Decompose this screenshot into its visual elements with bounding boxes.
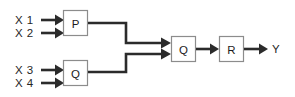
input-label-x1: X 1 <box>15 14 34 26</box>
wire-q-mid-to-r <box>196 44 219 55</box>
input-arrow-x3 <box>41 65 64 76</box>
block-q-lower-label: Q <box>71 68 80 80</box>
block-q-mid-label: Q <box>179 44 188 56</box>
block-r-label: R <box>227 44 235 56</box>
input-label-x2: X 2 <box>15 27 34 39</box>
wire-r-to-output-y <box>244 44 268 55</box>
input-arrow-x2 <box>41 28 64 39</box>
wire-q-lower-to-q-mid <box>88 49 171 73</box>
input-label-x4: X 4 <box>15 77 34 89</box>
input-label-x3: X 3 <box>15 64 34 76</box>
input-arrow-x4 <box>41 78 64 89</box>
wire-p-to-q-mid <box>88 23 171 49</box>
diagram-canvas: X 1 X 2 X 3 X 4 P Q <box>0 0 295 97</box>
output-label-y: Y <box>272 43 280 55</box>
input-arrow-x1 <box>41 15 64 26</box>
block-p-label: P <box>72 18 80 30</box>
block-diagram: X 1 X 2 X 3 X 4 P Q <box>0 0 295 97</box>
